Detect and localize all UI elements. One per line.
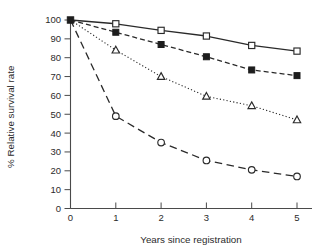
y-tick-label: 40: [50, 128, 61, 139]
y-tick-label: 90: [50, 33, 61, 44]
y-tick-group: 0102030405060708090100: [45, 14, 70, 214]
x-axis: 012345: [68, 203, 312, 224]
y-tick-label: 70: [50, 71, 61, 82]
y-tick-label: 0: [56, 203, 61, 214]
marker-open-square: [113, 21, 119, 27]
series-open-square-solid: [71, 20, 301, 54]
origin-marker-filled-square: [67, 17, 73, 23]
data-series-layer: [67, 17, 300, 180]
chart-canvas: 0102030405060708090100 012345 % Relative…: [0, 0, 318, 252]
marker-open-circle: [294, 173, 301, 180]
y-tick-label: 20: [50, 165, 61, 176]
marker-open-square: [249, 42, 255, 48]
series-line: [71, 20, 298, 51]
x-tick-label: 0: [68, 212, 73, 223]
series-open-circle-longdash: [71, 20, 301, 180]
x-tick-label: 4: [249, 212, 254, 223]
y-tick-label: 50: [50, 109, 61, 120]
marker-open-triangle: [293, 116, 300, 123]
y-tick-label: 30: [50, 146, 61, 157]
survival-curve-figure: 0102030405060708090100 012345 % Relative…: [0, 0, 318, 252]
marker-open-triangle: [157, 73, 164, 80]
marker-open-square: [203, 33, 209, 39]
x-axis-title: Years since registration: [140, 234, 241, 245]
y-axis-title: % Relative survival rate: [5, 65, 16, 168]
y-tick-label: 10: [50, 184, 61, 195]
marker-open-square: [158, 27, 164, 33]
series-line: [71, 20, 298, 76]
series-line: [71, 20, 298, 120]
series-line: [71, 20, 298, 176]
marker-open-triangle: [112, 46, 119, 53]
x-tick-label: 2: [158, 212, 163, 223]
marker-open-circle: [203, 157, 210, 164]
marker-filled-square: [249, 67, 255, 73]
y-tick-label: 80: [50, 52, 61, 63]
y-tick-label: 100: [45, 14, 61, 25]
y-tick-label: 60: [50, 90, 61, 101]
x-tick-label: 1: [113, 212, 118, 223]
marker-filled-square: [294, 73, 300, 79]
marker-filled-square: [113, 29, 119, 35]
x-tick-group: 012345: [68, 203, 300, 224]
marker-open-circle: [248, 167, 255, 174]
x-tick-label: 3: [204, 212, 209, 223]
y-axis: 0102030405060708090100: [45, 14, 70, 214]
marker-filled-square: [203, 54, 209, 60]
marker-open-triangle: [248, 102, 255, 109]
marker-open-circle: [158, 139, 165, 146]
marker-filled-square: [158, 42, 164, 48]
marker-open-circle: [113, 113, 120, 120]
series-filled-square-dashed: [71, 20, 301, 79]
marker-open-square: [294, 48, 300, 54]
x-tick-label: 5: [294, 212, 299, 223]
